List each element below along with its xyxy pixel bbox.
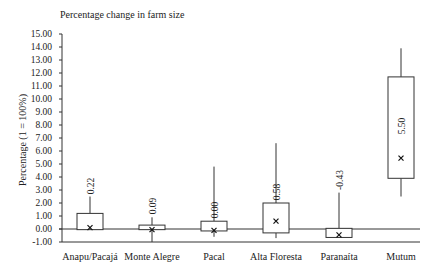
box-plot (0, 0, 438, 274)
median-value-label: 0.22 (86, 177, 96, 194)
y-tick-label: 14.00 (8, 42, 52, 52)
x-category-label: Monte Alegre (124, 251, 179, 262)
x-category-label: Paranaíta (320, 251, 357, 262)
median-value-label: -0.43 (335, 170, 345, 190)
x-category-label: Mutum (386, 251, 415, 262)
y-tick-label: 8.00 (8, 120, 52, 130)
box (326, 228, 352, 237)
y-tick-label: 10.00 (8, 94, 52, 104)
y-tick-label: 11.00 (8, 81, 52, 91)
y-tick-label: 6.00 (8, 146, 52, 156)
y-tick-label: 9.00 (8, 107, 52, 117)
median-value-label: 5.50 (397, 117, 407, 134)
x-category-label: Anapu/Pacajá (62, 251, 118, 262)
median-value-label: 0.58 (272, 184, 282, 201)
median-value-label: 0.00 (210, 202, 220, 219)
y-tick-label: 7.00 (8, 133, 52, 143)
y-tick-label: 1.00 (8, 211, 52, 221)
y-tick-label: 3.00 (8, 185, 52, 195)
median-value-label: 0.09 (148, 198, 158, 215)
y-tick-label: 0.00 (8, 224, 52, 234)
x-category-label: Pacal (203, 251, 225, 262)
y-tick-label: 5.00 (8, 159, 52, 169)
x-category-label: Alta Floresta (250, 251, 302, 262)
y-tick-label: 13.00 (8, 55, 52, 65)
y-tick-label: -1.00 (8, 237, 52, 247)
box (263, 203, 289, 233)
y-tick-label: 2.00 (8, 198, 52, 208)
y-tick-label: 12.00 (8, 68, 52, 78)
y-tick-label: 15.00 (8, 29, 52, 39)
y-tick-label: 4.00 (8, 172, 52, 182)
